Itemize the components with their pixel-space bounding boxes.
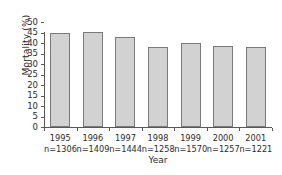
- x-axis-year-label: 2001: [239, 133, 272, 144]
- y-axis-tick-label: 15: [27, 91, 38, 100]
- x-axis-year-label: 1996: [77, 133, 110, 144]
- bar: [83, 32, 103, 127]
- x-axis-sample-size-label: n=1258: [142, 144, 175, 155]
- bar: [213, 46, 233, 127]
- y-axis: 05101520253035404550: [0, 0, 44, 128]
- x-axis-year-label: 1995: [44, 133, 77, 144]
- x-axis-tick: [207, 128, 208, 131]
- x-axis-year-label: 1998: [142, 133, 175, 144]
- x-axis-title: Year: [44, 155, 272, 165]
- y-axis-tick-label: 30: [27, 60, 38, 69]
- y-axis-tick-label: 45: [27, 28, 38, 37]
- x-axis-sample-size-label: n=1444: [109, 144, 142, 155]
- x-axis-tick: [239, 128, 240, 131]
- y-axis-tick-label: 35: [27, 49, 38, 58]
- x-axis-sample-size-label: n=1257: [207, 144, 240, 155]
- bar: [181, 43, 201, 127]
- x-axis-tick: [142, 128, 143, 131]
- x-axis-tick-label: 1998n=1258: [142, 133, 175, 154]
- x-axis-tick-label: 1999n=1570: [174, 133, 207, 154]
- y-axis-tick-label: 50: [27, 18, 38, 27]
- bar: [115, 37, 135, 127]
- x-axis-sample-size-label: n=1570: [174, 144, 207, 155]
- x-axis-tick: [77, 128, 78, 131]
- x-axis-year-label: 1997: [109, 133, 142, 144]
- x-axis-sample-size-label: n=1306: [44, 144, 77, 155]
- x-axis-spine: [44, 127, 272, 128]
- x-axis-year-label: 1999: [174, 133, 207, 144]
- bar: [50, 33, 70, 127]
- x-axis-tick: [272, 128, 273, 131]
- x-axis-tick-label: 1997n=1444: [109, 133, 142, 154]
- y-axis-tick-label: 40: [27, 39, 38, 48]
- x-axis-tick-label: 2001n=1221: [239, 133, 272, 154]
- bar: [148, 47, 168, 127]
- bar-chart-figure: Mortality (%) 05101520253035404550 Year …: [0, 0, 282, 175]
- plot-area: [44, 22, 272, 127]
- x-axis-sample-size-label: n=1409: [77, 144, 110, 155]
- x-axis-sample-size-label: n=1221: [239, 144, 272, 155]
- y-axis-tick-label: 25: [27, 70, 38, 79]
- x-axis-tick: [109, 128, 110, 131]
- x-axis-tick: [174, 128, 175, 131]
- x-axis-tick: [44, 128, 45, 131]
- bar: [246, 47, 266, 127]
- x-axis-year-label: 2000: [207, 133, 240, 144]
- x-axis-tick-label: 1996n=1409: [77, 133, 110, 154]
- y-axis-tick-label: 20: [27, 81, 38, 90]
- x-axis-tick-label: 2000n=1257: [207, 133, 240, 154]
- x-axis-tick-label: 1995n=1306: [44, 133, 77, 154]
- y-axis-tick-label: 10: [27, 102, 38, 111]
- y-axis-tick-label: 5: [33, 112, 38, 121]
- y-axis-tick-label: 0: [33, 123, 38, 132]
